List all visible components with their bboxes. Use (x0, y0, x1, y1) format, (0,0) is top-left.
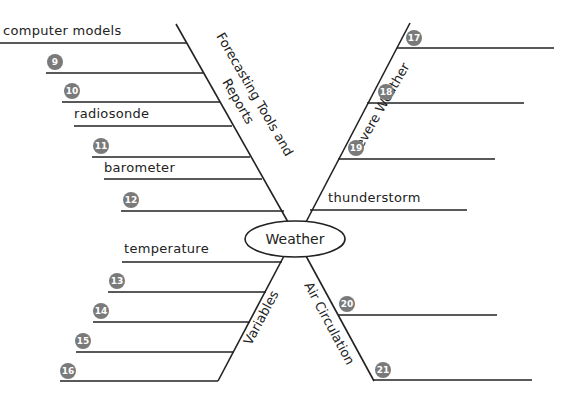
badge-12: 12 (123, 192, 139, 208)
badge-9: 9 (47, 54, 63, 70)
center-node: Weather (245, 221, 345, 257)
badge-16: 16 (60, 363, 76, 379)
branch-label-variables: Variables (240, 288, 281, 348)
branch-severe-weather: Severe Weather 17 18 19 thunderstorm (310, 30, 554, 210)
badge-15: 15 (75, 333, 91, 349)
item-barometer: barometer (104, 160, 175, 175)
diagram-svg: Weather Forecasting Tools and Reports co… (0, 0, 581, 400)
item-radiosonde: radiosonde (74, 106, 149, 121)
branch-air-circulation: Air Circulation 20 21 (301, 279, 532, 380)
badge-20: 20 (339, 296, 355, 312)
svg-text:15: 15 (77, 336, 90, 346)
item-computer-models: computer models (3, 23, 122, 38)
badge-21: 21 (375, 362, 391, 378)
spine-bottom-right (306, 256, 374, 381)
svg-text:17: 17 (408, 33, 421, 43)
item-temperature: temperature (124, 241, 209, 256)
svg-text:12: 12 (125, 195, 138, 205)
badge-10: 10 (64, 83, 80, 99)
svg-text:11: 11 (95, 141, 108, 151)
svg-text:9: 9 (52, 57, 58, 67)
branch-variables: Variables temperature 13 14 15 16 (60, 241, 282, 381)
svg-text:18: 18 (380, 87, 393, 97)
svg-text:16: 16 (62, 366, 75, 376)
badge-17: 17 (406, 30, 422, 46)
badge-14: 14 (93, 303, 109, 319)
svg-text:14: 14 (95, 306, 108, 316)
branch-forecasting-tools: Forecasting Tools and Reports computer m… (0, 23, 296, 211)
svg-text:13: 13 (111, 276, 124, 286)
fishbone-diagram: Weather Forecasting Tools and Reports co… (0, 0, 581, 400)
badge-13: 13 (109, 273, 125, 289)
badge-18: 18 (378, 84, 394, 100)
badge-11: 11 (93, 138, 109, 154)
svg-text:20: 20 (341, 299, 354, 309)
center-label: Weather (266, 231, 325, 247)
item-thunderstorm: thunderstorm (328, 190, 421, 205)
branch-label-air-circulation: Air Circulation (301, 279, 357, 367)
svg-text:19: 19 (350, 143, 363, 153)
svg-text:21: 21 (377, 365, 390, 375)
badge-19: 19 (348, 140, 364, 156)
svg-text:10: 10 (66, 86, 79, 96)
